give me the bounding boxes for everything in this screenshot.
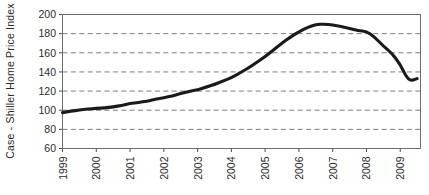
y-axis-title: Case - Shiller Home Price Index	[4, 3, 16, 159]
x-tick-label: 2000	[90, 156, 102, 180]
x-tick-label: 2005	[259, 156, 271, 180]
x-tick-label: 2007	[327, 156, 339, 180]
x-tick-label: 2001	[124, 156, 136, 180]
x-tick-label: 1999	[57, 156, 69, 180]
x-tick-label: 2003	[192, 156, 204, 180]
y-tick-label: 60	[44, 142, 56, 154]
x-tick-label: 2002	[158, 156, 170, 180]
home-price-index-line	[63, 24, 418, 112]
y-axis-ticks: 6080100120140160180200	[38, 8, 62, 154]
y-tick-label: 140	[38, 66, 56, 78]
y-tick-label: 80	[44, 123, 56, 135]
gridlines	[63, 34, 421, 130]
plot-area-border	[63, 15, 421, 149]
y-tick-label: 160	[38, 47, 56, 59]
x-tick-label: 2009	[394, 156, 406, 180]
y-tick-label: 120	[38, 85, 56, 97]
x-tick-label: 2004	[225, 156, 237, 180]
case-shiller-line-chart: 6080100120140160180200 19992000200120022…	[0, 0, 429, 195]
x-tick-label: 2008	[360, 156, 372, 180]
y-tick-label: 180	[38, 27, 56, 39]
y-tick-label: 200	[38, 8, 56, 20]
x-tick-label: 2006	[293, 156, 305, 180]
x-axis-ticks: 1999200020012002200320042005200620072008…	[57, 149, 407, 180]
y-tick-label: 100	[38, 104, 56, 116]
chart-canvas: 6080100120140160180200 19992000200120022…	[0, 0, 429, 195]
